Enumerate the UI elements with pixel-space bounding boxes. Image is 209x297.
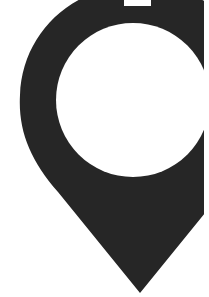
image-canvas xyxy=(0,0,209,297)
top-gap xyxy=(124,0,151,6)
map-pin-icon xyxy=(0,0,209,297)
pin-body xyxy=(20,0,209,293)
